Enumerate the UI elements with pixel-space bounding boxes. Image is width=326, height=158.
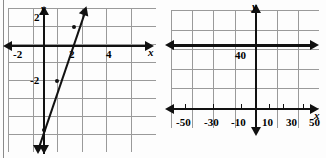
- left-line-point-1: [42, 128, 46, 132]
- right-xtick--30: -30: [204, 117, 219, 128]
- right-xtick-mark-50: [303, 104, 304, 109]
- left-x-axis: [10, 45, 148, 47]
- right-xtick-50: 50: [309, 117, 320, 128]
- right-xtick-mark--30: [213, 104, 214, 109]
- right-xtick-10: 10: [262, 117, 273, 128]
- left-coordinate-graph: y x -2 2 4 2 -2: [0, 0, 163, 158]
- right-y-axis-arrow-negative: [251, 127, 261, 136]
- left-xtick--2: -2: [13, 49, 22, 60]
- right-xtick--10: -10: [231, 117, 246, 128]
- right-x-axis-arrow-negative: [165, 104, 174, 114]
- right-line-value-label: 40: [235, 50, 246, 61]
- right-xtick-mark--10: [241, 104, 242, 109]
- right-y-axis: [255, 12, 257, 134]
- right-grid: [171, 10, 319, 128]
- left-xtick-4: 4: [106, 49, 112, 60]
- left-line-arrow-bottom-b: [39, 145, 49, 154]
- right-xtick--50: -50: [176, 117, 191, 128]
- two-graph-figure: y x -2 2 4 2 -2 y x: [0, 0, 326, 158]
- right-constant-line-arrow-left: [165, 40, 174, 50]
- left-border-rule: [3, 0, 4, 158]
- right-xtick-30: 30: [286, 117, 297, 128]
- right-xtick-mark-10: [269, 104, 270, 109]
- right-xtick-mark--50: [185, 104, 186, 109]
- right-constant-line-arrow-right: [310, 40, 319, 50]
- right-coordinate-graph: y x -50 -30 -10 10 30 50 40: [163, 0, 326, 158]
- left-ytick--2: -2: [30, 75, 39, 86]
- left-line-point-3: [72, 25, 76, 29]
- left-line-point-2: [55, 79, 59, 83]
- right-x-axis: [173, 108, 313, 110]
- left-x-axis-arrow-negative: [3, 41, 12, 51]
- left-y-axis-label: y: [41, 3, 46, 14]
- left-x-axis-label: x: [148, 47, 154, 58]
- right-xtick-mark-30: [283, 104, 284, 109]
- right-constant-line: [173, 44, 313, 47]
- left-ytick-2: 2: [34, 12, 40, 23]
- right-y-axis-label: y: [252, 1, 257, 12]
